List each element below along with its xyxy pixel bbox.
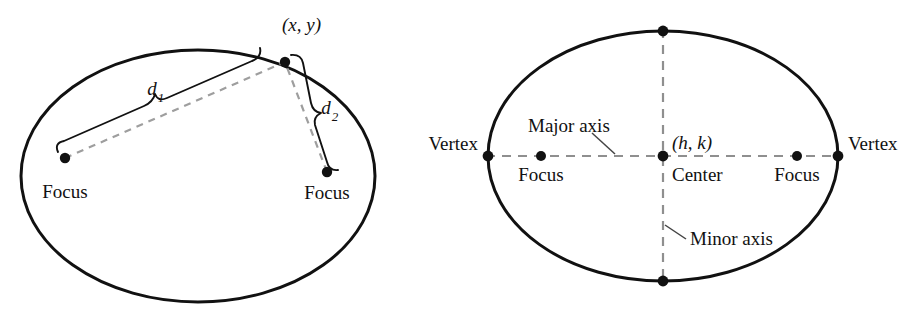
right-ellipse-diagram: Vertex Vertex Major axis Minor axis Focu… xyxy=(428,26,898,287)
ellipse-figure: (x, y) d 1 d 2 Focus Focus xyxy=(0,0,915,315)
center-label: Center xyxy=(672,164,723,185)
right-diagram-focus-label-right: Focus xyxy=(774,164,819,185)
d1-label: d xyxy=(147,78,157,99)
right-diagram-focus-marker-left xyxy=(536,151,546,161)
point-xy-label: (x, y) xyxy=(282,14,321,36)
left-focal-radius-dashed-1 xyxy=(65,62,285,158)
bottom-covertex-marker xyxy=(658,276,669,287)
left-focus-marker-1 xyxy=(60,153,70,163)
left-ellipse-outline xyxy=(21,50,375,302)
d2-label: d xyxy=(321,97,331,118)
left-ellipse-diagram: (x, y) d 1 d 2 Focus Focus xyxy=(21,14,375,302)
left-focus-marker-2 xyxy=(322,167,332,177)
major-axis-label: Major axis xyxy=(528,115,610,136)
left-vertex-label: Vertex xyxy=(428,133,478,154)
right-vertex-label: Vertex xyxy=(848,133,898,154)
d2-subscript: 2 xyxy=(332,109,339,124)
left-focus-label-2: Focus xyxy=(304,182,349,203)
center-coords-label: (h, k) xyxy=(672,132,712,154)
d1-subscript: 1 xyxy=(158,90,165,105)
right-vertex-marker xyxy=(833,151,844,162)
center-marker xyxy=(658,151,669,162)
right-diagram-focus-label-left: Focus xyxy=(518,164,563,185)
ellipse-figure-svg: (x, y) d 1 d 2 Focus Focus xyxy=(0,0,915,315)
point-xy-marker xyxy=(280,57,290,67)
major-axis-leader-line xyxy=(592,133,615,154)
d2-label-group: d 2 xyxy=(321,97,339,124)
minor-axis-label: Minor axis xyxy=(690,228,773,249)
right-diagram-focus-marker-right xyxy=(792,151,802,161)
left-vertex-marker xyxy=(483,151,494,162)
d1-label-group: d 1 xyxy=(147,78,164,105)
top-covertex-marker xyxy=(658,26,669,37)
left-focus-label-1: Focus xyxy=(42,181,87,202)
minor-axis-leader-line xyxy=(665,225,686,239)
